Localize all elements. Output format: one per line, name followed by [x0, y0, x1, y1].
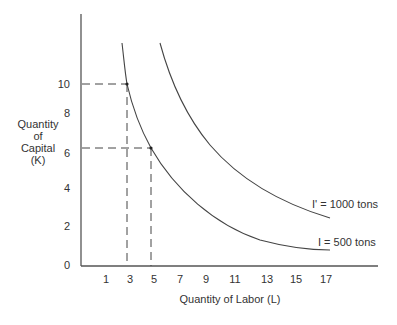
svg-text:7: 7: [177, 273, 183, 285]
y-tick-labels: 0 2 4 6 8 10: [58, 78, 70, 271]
isoquant-1000-label: I' = 1000 tons: [312, 198, 379, 210]
x-tick-labels: 1 3 5 7 9 11 13 15 17: [103, 273, 332, 285]
point-L5-K6: [149, 146, 152, 149]
svg-text:4: 4: [64, 182, 70, 194]
svg-text:Capital: Capital: [21, 142, 55, 154]
isoquant-500-curve: [122, 43, 330, 250]
svg-text:5: 5: [151, 273, 157, 285]
y-axis-title: Quantity of Capital (K): [18, 118, 59, 166]
svg-text:Quantity: Quantity: [18, 118, 59, 130]
svg-text:8: 8: [64, 107, 70, 119]
svg-text:3: 3: [127, 273, 133, 285]
svg-text:11: 11: [229, 273, 240, 285]
svg-text:0: 0: [64, 259, 70, 271]
svg-text:of: of: [33, 130, 43, 142]
isoquant-chart: I' = 1000 tons I = 500 tons 1 3 5 7 9 11…: [0, 0, 397, 325]
svg-text:6: 6: [64, 147, 70, 159]
point-L3-K10: [125, 82, 128, 85]
svg-text:17: 17: [320, 273, 332, 285]
svg-text:1: 1: [103, 273, 109, 285]
isoquant-500-label: I = 500 tons: [318, 236, 376, 248]
svg-text:2: 2: [64, 220, 70, 232]
svg-text:13: 13: [261, 273, 273, 285]
svg-text:(K): (K): [31, 154, 46, 166]
svg-text:10: 10: [58, 78, 70, 90]
x-axis-title: Quantity of Labor (L): [180, 293, 281, 305]
svg-text:9: 9: [203, 273, 209, 285]
isoquant-1000-curve: [160, 43, 330, 218]
dashed-guides: [82, 84, 151, 266]
svg-text:15: 15: [290, 273, 302, 285]
